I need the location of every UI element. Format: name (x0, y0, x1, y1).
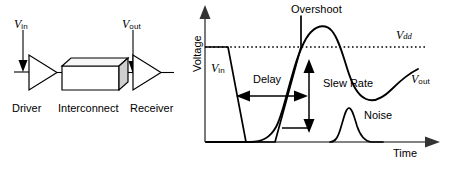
interconnect-caption: Interconnect (58, 103, 119, 114)
vdd-label: Vdd (396, 29, 412, 41)
vout-curve-subscript: out (418, 77, 429, 86)
receiver-buffer-symbol (133, 55, 161, 90)
receiver-caption: Receiver (130, 103, 173, 114)
noise-annotation: Noise (364, 110, 392, 121)
vin-curve-label: Vin (211, 62, 225, 75)
circuit-vin-subscript: in (21, 22, 27, 31)
driver-caption: Driver (12, 103, 41, 114)
vout-curve-label: Vout (411, 73, 430, 86)
interconnect-3d-box (62, 58, 128, 90)
vdd-subscript: dd (403, 31, 412, 41)
x-axis-arrowhead (425, 137, 440, 148)
vin-arrowhead (19, 60, 28, 72)
delay-annotation: Delay (253, 74, 281, 85)
x-axis-title: Time (393, 148, 417, 159)
driver-buffer-symbol (29, 55, 57, 90)
delay-double-arrow (236, 91, 308, 102)
y-axis-title: Voltage (192, 35, 203, 72)
vin-curve-subscript: in (218, 66, 224, 75)
waveform-chart-svg (178, 0, 449, 170)
y-axis (200, 5, 211, 142)
circuit-vout-label: Vout (122, 18, 141, 31)
circuit-schematic-panel: Vin Vout Driver Interconnect Receiver (0, 0, 178, 170)
circuit-vin-label: Vin (14, 18, 28, 31)
y-axis-arrowhead (200, 5, 211, 19)
waveform-chart-panel: Voltage Time Vdd Vin Vout Overshoot Dela… (178, 0, 449, 170)
circuit-vout-subscript: out (129, 22, 140, 31)
vin-probe-line (19, 30, 28, 72)
overshoot-annotation: Overshoot (291, 4, 342, 15)
slew-rate-annotation: Slew Rate (323, 78, 373, 89)
figure-root: Vin Vout Driver Interconnect Receiver (0, 0, 449, 170)
